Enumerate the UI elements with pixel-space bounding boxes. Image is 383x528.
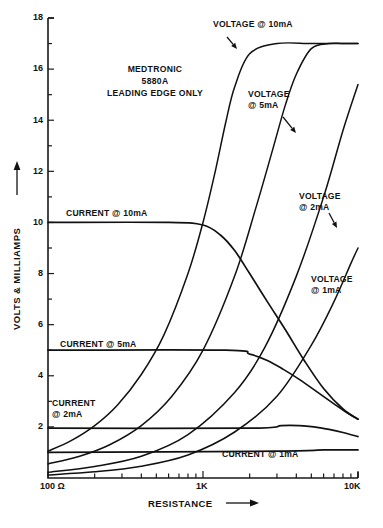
annotation-voltage-5ma: VOLTAGE@ 5mA	[248, 89, 296, 133]
annotation-label: @ 2mA	[52, 409, 82, 419]
x-axis-arrow-head	[250, 500, 259, 507]
annotation-leader	[283, 117, 292, 128]
y-tick-label: 2	[38, 421, 43, 431]
title-block-line-1: MEDTRONIC	[128, 64, 183, 74]
series-curve-current-2ma	[48, 425, 358, 436]
y-tick-label: 12	[33, 166, 43, 176]
axis-lines	[48, 18, 358, 478]
y-tick-label: 16	[33, 63, 43, 73]
annotation-current-2ma: CURRENT@ 2mA	[52, 398, 96, 419]
y-axis-title: VOLTS & MILLIAMPS	[11, 228, 22, 330]
annotation-leader	[329, 213, 334, 223]
x-tick-label-1k: 1K	[196, 481, 208, 491]
series-curve-current-5ma	[48, 350, 358, 419]
annotation-label: CURRENT @ 5mA	[60, 339, 136, 349]
resistance-vs-volts-milliamps-chart: 24681012141618 VOLTS & MILLIAMPS RESISTA…	[0, 0, 383, 528]
y-tick-label: 10	[33, 217, 43, 227]
annotation-label: VOLTAGE	[311, 274, 353, 284]
axes	[48, 18, 358, 478]
y-axis-tick-labels: 24681012141618	[33, 12, 43, 431]
annotation-leader	[227, 37, 233, 44]
x-tick-label-10k: 10K	[344, 481, 361, 491]
y-tick-label: 14	[33, 115, 43, 125]
annotation-label: CURRENT @ 10mA	[66, 208, 147, 218]
title-block-line-3: LEADING EDGE ONLY	[107, 88, 203, 98]
y-tick-label: 4	[38, 370, 43, 380]
x-axis-title-group: RESISTANCE	[148, 498, 259, 509]
annotation-voltage-1ma: VOLTAGE@ 1mA	[311, 274, 353, 295]
title-block-line-2: 5880A	[142, 76, 169, 86]
annotation-voltage-2ma: VOLTAGE@ 2mA	[299, 191, 341, 228]
x-tick-label-100ohm: 100 Ω	[40, 481, 65, 491]
annotation-layer: VOLTAGE @ 10mAVOLTAGE@ 5mAVOLTAGE@ 2mAVO…	[52, 19, 353, 459]
annotation-label: @ 5mA	[248, 100, 278, 110]
series-curve-current-10ma	[48, 222, 358, 419]
annotation-current-5ma: CURRENT @ 5mA	[60, 339, 136, 349]
data-series-layer	[48, 43, 358, 475]
annotation-label: VOLTAGE	[299, 191, 341, 201]
annotation-label: VOLTAGE	[248, 89, 290, 99]
x-axis-title: RESISTANCE	[148, 498, 213, 509]
annotation-label: CURRENT	[52, 398, 96, 408]
title-block: MEDTRONIC 5880A LEADING EDGE ONLY	[107, 64, 203, 98]
y-tick-label: 6	[38, 319, 43, 329]
annotation-current-10ma: CURRENT @ 10mA	[66, 208, 147, 218]
y-axis-arrow-head	[14, 161, 21, 170]
annotation-label: VOLTAGE @ 10mA	[213, 19, 293, 29]
series-curve-voltage-10ma	[48, 43, 358, 451]
y-axis-ticks	[48, 18, 54, 452]
y-tick-label: 18	[33, 12, 43, 22]
annotation-label: @ 2mA	[299, 202, 329, 212]
y-tick-label: 8	[38, 268, 43, 278]
y-axis-title-group: VOLTS & MILLIAMPS	[11, 161, 22, 330]
annotation-label: @ 1mA	[311, 285, 341, 295]
annotation-current-1mA: CURRENT @ 1mA	[222, 449, 298, 459]
annotation-voltage-10ma: VOLTAGE @ 10mA	[213, 19, 293, 49]
chart-figure: 24681012141618 VOLTS & MILLIAMPS RESISTA…	[0, 0, 383, 528]
annotation-label: CURRENT @ 1mA	[222, 449, 298, 459]
x-axis-tick-labels: 100 Ω 1K 10K	[40, 481, 361, 491]
